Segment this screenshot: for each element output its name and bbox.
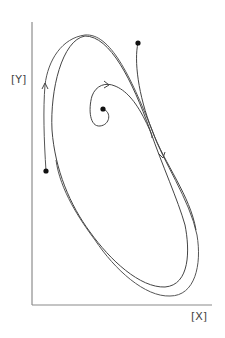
- initial-point-upper-right: [135, 40, 140, 45]
- initial-point-left: [43, 168, 48, 173]
- initial-point-center: [100, 106, 105, 111]
- phase-portrait: [0, 0, 225, 338]
- x-axis-label: [X]: [191, 310, 207, 323]
- y-axis-label: [Y]: [11, 73, 26, 86]
- trajectory-upper-right: [137, 43, 196, 230]
- trajectory-left: [44, 35, 199, 296]
